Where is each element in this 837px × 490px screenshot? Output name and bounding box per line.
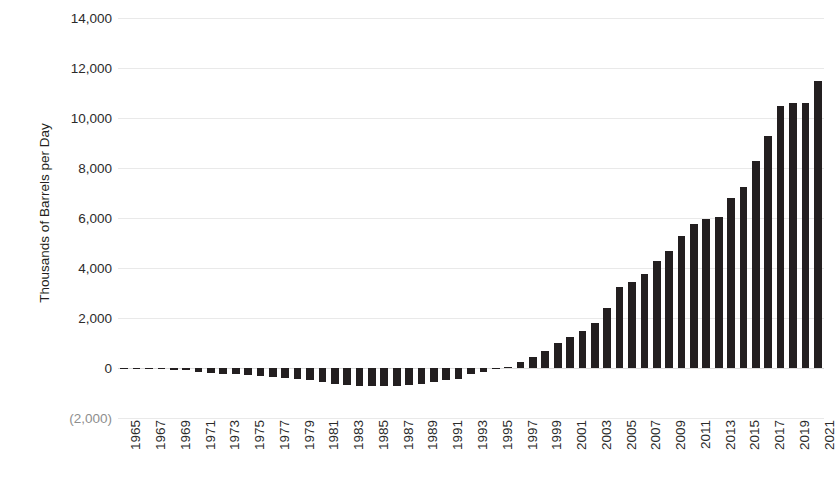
x-tick-label: 1975 xyxy=(253,420,267,450)
bar xyxy=(802,103,810,368)
bar xyxy=(579,331,587,369)
x-tick-label: 2021 xyxy=(823,420,837,450)
x-tick-label: 2017 xyxy=(773,420,787,450)
bar xyxy=(517,362,525,368)
x-tick-label: 1967 xyxy=(154,420,168,450)
y-tick-label: 10,000 xyxy=(30,111,112,126)
x-tick-label: 1999 xyxy=(550,420,564,450)
x-tick-label: 2015 xyxy=(748,420,762,450)
x-tick-label: 1971 xyxy=(204,420,218,450)
y-tick-label: 14,000 xyxy=(30,11,112,26)
bar xyxy=(752,161,760,369)
bar xyxy=(269,368,277,377)
y-tick-label: 2,000 xyxy=(30,311,112,326)
bar xyxy=(678,236,686,369)
gridline xyxy=(118,418,824,419)
x-tick-label: 2005 xyxy=(625,420,639,450)
bar xyxy=(653,261,661,369)
bar xyxy=(566,337,574,368)
bar xyxy=(641,274,649,368)
bar xyxy=(480,368,488,372)
y-tick-label: 8,000 xyxy=(30,161,112,176)
x-tick-label: 1981 xyxy=(327,420,341,450)
bar-series xyxy=(118,18,824,418)
bar xyxy=(628,282,636,368)
bar xyxy=(430,368,438,382)
x-tick-label: 2001 xyxy=(575,420,589,450)
bar xyxy=(529,357,537,368)
x-axis-tick-labels: 1965196719691971197319751977197919811983… xyxy=(118,420,824,490)
bar xyxy=(244,368,252,375)
bar xyxy=(616,287,624,368)
bar xyxy=(442,368,450,380)
x-tick-label: 1997 xyxy=(526,420,540,450)
bar xyxy=(393,368,401,386)
x-tick-label: 1993 xyxy=(476,420,490,450)
bar xyxy=(504,367,512,369)
bar xyxy=(740,187,748,368)
x-tick-label: 2007 xyxy=(649,420,663,450)
x-tick-label: 2019 xyxy=(798,420,812,450)
bar xyxy=(145,368,153,369)
bar xyxy=(603,308,611,368)
bar xyxy=(727,198,735,368)
bar xyxy=(232,368,240,374)
bar xyxy=(455,368,463,379)
y-tick-label: (2,000) xyxy=(30,411,112,426)
bar xyxy=(306,368,314,380)
bar xyxy=(789,103,797,368)
y-tick-label: 4,000 xyxy=(30,261,112,276)
bar xyxy=(368,368,376,386)
x-tick-label: 2011 xyxy=(699,420,713,449)
bar xyxy=(133,368,141,369)
x-tick-label: 1979 xyxy=(303,420,317,450)
bar xyxy=(207,368,215,373)
x-tick-label: 1991 xyxy=(451,420,465,450)
bar xyxy=(120,368,128,369)
bar xyxy=(356,368,364,386)
y-tick-label: 12,000 xyxy=(30,61,112,76)
x-tick-label: 1995 xyxy=(501,420,515,450)
bar xyxy=(294,368,302,379)
bar xyxy=(467,368,475,374)
bar xyxy=(380,368,388,386)
plot-area xyxy=(118,18,824,418)
x-tick-label: 2003 xyxy=(600,420,614,450)
bar xyxy=(492,368,500,369)
bar xyxy=(257,368,265,376)
bar xyxy=(591,323,599,368)
bar xyxy=(195,368,203,372)
x-tick-label: 1969 xyxy=(179,420,193,450)
bar xyxy=(665,251,673,369)
bar xyxy=(554,343,562,368)
bar xyxy=(219,368,227,374)
bar xyxy=(343,368,351,385)
x-tick-label: 1989 xyxy=(426,420,440,450)
bar xyxy=(690,224,698,368)
x-tick-label: 1985 xyxy=(377,420,391,450)
x-tick-label: 1973 xyxy=(228,420,242,450)
x-tick-label: 1965 xyxy=(129,420,143,450)
x-tick-label: 1977 xyxy=(278,420,292,450)
bar xyxy=(319,368,327,382)
bar xyxy=(702,219,710,368)
x-tick-label: 2013 xyxy=(724,420,738,450)
bar xyxy=(158,368,166,369)
bar xyxy=(814,81,822,369)
x-tick-label: 1987 xyxy=(402,420,416,450)
bar xyxy=(777,106,785,369)
y-tick-label: 0 xyxy=(30,361,112,376)
bar xyxy=(418,368,426,384)
bar xyxy=(281,368,289,378)
bar xyxy=(405,368,413,385)
bar xyxy=(541,351,549,369)
bar xyxy=(170,368,178,370)
x-tick-label: 1983 xyxy=(352,420,366,450)
bar xyxy=(331,368,339,384)
x-tick-label: 2009 xyxy=(674,420,688,450)
y-tick-label: 6,000 xyxy=(30,211,112,226)
bar xyxy=(182,368,190,370)
bar xyxy=(715,217,723,368)
bar xyxy=(764,136,772,369)
